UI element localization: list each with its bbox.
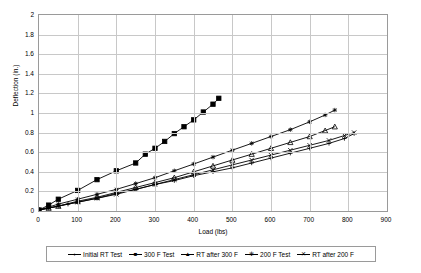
legend-label: 200 F Test — [260, 251, 290, 258]
legend-marker-triangle-icon: ▲ — [181, 251, 194, 258]
gridline-vertical — [271, 15, 272, 211]
x-tick-label: 600 — [255, 216, 285, 223]
x-tick-label: 500 — [216, 216, 246, 223]
y-tick-label: 0.4 — [0, 168, 34, 175]
x-tick-label: 100 — [62, 216, 92, 223]
legend-label: Initial RT Test — [83, 251, 122, 258]
x-tick-label: 200 — [100, 216, 130, 223]
y-tick-label: 0 — [0, 207, 34, 214]
gridline-horizontal — [39, 133, 387, 134]
y-tick-label: 2 — [0, 11, 34, 18]
x-tick-label: 700 — [294, 216, 324, 223]
deflection-vs-load-chart: Deflection (in.) Load (lbs) +Initial RT … — [0, 0, 421, 273]
gridline-horizontal — [39, 54, 387, 55]
gridline-horizontal — [39, 172, 387, 173]
legend-entry-1: ■300 F Test — [129, 251, 174, 258]
x-tick-label: 0 — [23, 216, 53, 223]
x-tick-label: 300 — [139, 216, 169, 223]
series-3 — [39, 108, 337, 211]
gridline-vertical — [232, 15, 233, 211]
plot-area — [38, 14, 388, 212]
x-tick-label: 800 — [332, 216, 362, 223]
gridline-vertical — [78, 15, 79, 211]
legend-entry-3: ✻200 F Test — [245, 251, 290, 258]
legend-label: RT after 200 F — [312, 251, 354, 258]
y-tick-label: 1.2 — [0, 89, 34, 96]
y-tick-label: 1 — [0, 109, 34, 116]
y-tick-label: 0.8 — [0, 129, 34, 136]
gridline-horizontal — [39, 152, 387, 153]
gridline-horizontal — [39, 74, 387, 75]
legend-marker-plus-icon: + — [68, 251, 81, 258]
legend-entry-0: +Initial RT Test — [68, 251, 122, 258]
y-tick-label: 1.6 — [0, 50, 34, 57]
y-tick-label: 1.4 — [0, 70, 34, 77]
x-axis-label: Load (lbs) — [38, 228, 388, 235]
y-tick-label: 0.2 — [0, 187, 34, 194]
gridline-vertical — [194, 15, 195, 211]
gridline-horizontal — [39, 191, 387, 192]
gridline-vertical — [116, 15, 117, 211]
legend-marker-star-icon: ✻ — [245, 251, 258, 258]
x-tick-label: 400 — [178, 216, 208, 223]
legend-entry-4: ✕RT after 200 F — [297, 251, 354, 258]
y-tick-label: 0.6 — [0, 148, 34, 155]
gridline-horizontal — [39, 35, 387, 36]
gridline-vertical — [348, 15, 349, 211]
legend-label: 300 F Test — [144, 251, 174, 258]
legend-marker-square-icon: ■ — [129, 251, 142, 258]
gridline-vertical — [155, 15, 156, 211]
chart-legend: +Initial RT Test■300 F Test▲RT after 300… — [46, 246, 376, 262]
legend-label: RT after 300 F — [196, 251, 238, 258]
gridline-horizontal — [39, 93, 387, 94]
gridline-horizontal — [39, 113, 387, 114]
x-tick-label: 900 — [371, 216, 401, 223]
y-tick-label: 1.8 — [0, 31, 34, 38]
legend-entry-2: ▲RT after 300 F — [181, 251, 238, 258]
gridline-vertical — [310, 15, 311, 211]
legend-marker-cross-icon: ✕ — [297, 251, 310, 258]
